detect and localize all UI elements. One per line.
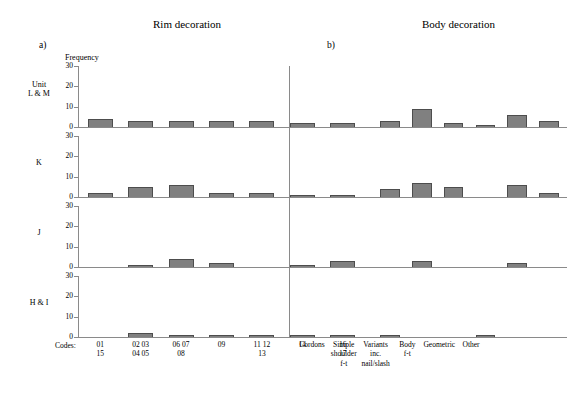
- panel-row-0: UnitL & M 3020100: [78, 66, 567, 128]
- bar-rim-r1-c1: [128, 187, 153, 197]
- y-tick-label: 0: [69, 193, 73, 201]
- bar-slot: [533, 136, 565, 197]
- bar-rim-r1-c5: [290, 195, 315, 197]
- y-tick-label: 30: [66, 62, 74, 70]
- bar-slot: [161, 276, 201, 337]
- bar-slot: [120, 136, 160, 197]
- y-tick-label: 30: [66, 272, 74, 280]
- x-tick-label-body-1: Simpleshoulderf-t: [328, 340, 360, 368]
- bars-body-2: [374, 206, 565, 267]
- bar-slot: [282, 206, 322, 267]
- bar-rim-r1-c3: [209, 193, 234, 197]
- bar-slot: [201, 136, 241, 197]
- bar-slot: [374, 136, 406, 197]
- x-tick-label-rim-0: 0115: [80, 340, 120, 359]
- bar-slot: [533, 276, 565, 337]
- y-tick-label: 30: [66, 202, 74, 210]
- y-axis-line-2: [78, 206, 79, 268]
- bar-slot: [438, 66, 470, 127]
- row-label-0: UnitL & M: [22, 80, 56, 98]
- panel-row-3: H & I 3020100: [78, 276, 567, 338]
- y-tick: [74, 107, 78, 108]
- bar-body-r1-c2: [444, 187, 464, 197]
- bar-rim-r3-c6: [330, 335, 355, 337]
- bar-slot: [282, 66, 322, 127]
- x-tick-label-body-4: Geometric: [423, 340, 455, 368]
- bar-slot: [406, 66, 438, 127]
- bar-body-r0-c3: [476, 125, 496, 127]
- bar-slot: [323, 66, 363, 127]
- bar-slot: [201, 276, 241, 337]
- bar-slot: [161, 206, 201, 267]
- bar-slot: [469, 136, 501, 197]
- x-tick-label-body-5: Other: [455, 340, 487, 368]
- chart-title-rim: Rim decoration: [153, 18, 221, 30]
- y-tick: [74, 127, 78, 128]
- bar-rim-r0-c2: [169, 121, 194, 127]
- y-tick: [74, 337, 78, 338]
- bar-body-r1-c0: [380, 189, 400, 197]
- bars-rim-3: [80, 276, 363, 337]
- x-tick-labels-body: CordonsSimpleshoulderf-tVariantsinc.nail…: [296, 340, 487, 368]
- bar-slot: [161, 66, 201, 127]
- bar-rim-r2-c5: [290, 265, 315, 267]
- bars-body-3: [374, 276, 565, 337]
- chart-title-body: Body decoration: [422, 18, 495, 30]
- bar-rim-r3-c5: [290, 335, 315, 337]
- bar-slot: [501, 276, 533, 337]
- bar-slot: [469, 276, 501, 337]
- y-tick-label: 30: [66, 132, 74, 140]
- x-tick-label-rim-3: 09: [201, 340, 241, 359]
- y-tick: [74, 156, 78, 157]
- y-tick: [74, 197, 78, 198]
- bar-slot: [282, 136, 322, 197]
- chart-canvas: Rim decoration Body decoration a) b) Fre…: [0, 0, 586, 399]
- bar-rim-r1-c6: [330, 195, 355, 197]
- bar-rim-r1-c4: [249, 193, 274, 197]
- bar-body-r1-c1: [412, 183, 432, 197]
- y-tick-label: 20: [66, 223, 74, 231]
- row-label-3: H & I: [22, 298, 56, 307]
- bars-rim-2: [80, 206, 363, 267]
- bar-rim-r0-c1: [128, 121, 153, 127]
- y-axis-line-0: [78, 66, 79, 128]
- x-tick-label-rim-4: 11 1213: [242, 340, 282, 359]
- y-axis-line-3: [78, 276, 79, 338]
- y-tick: [74, 247, 78, 248]
- bar-body-r2-c4: [507, 263, 527, 267]
- y-tick-label: 0: [69, 263, 73, 271]
- bar-slot: [533, 206, 565, 267]
- bar-rim-r2-c3: [209, 263, 234, 267]
- bar-body-r0-c4: [507, 115, 527, 127]
- bar-slot: [501, 206, 533, 267]
- x-tick-label-rim-2: 06 0708: [161, 340, 201, 359]
- y-tick: [74, 317, 78, 318]
- bar-slot: [120, 206, 160, 267]
- bar-slot: [406, 206, 438, 267]
- y-tick-label: 20: [66, 153, 74, 161]
- bar-rim-r1-c0: [88, 193, 113, 197]
- bar-slot: [80, 276, 120, 337]
- bar-slot: [438, 276, 470, 337]
- bar-body-r1-c5: [539, 193, 559, 197]
- panel-label-b: b): [327, 40, 335, 50]
- panel-row-1: K 3020100: [78, 136, 567, 198]
- bar-slot: [374, 276, 406, 337]
- bar-slot: [242, 66, 282, 127]
- bar-rim-r0-c0: [88, 119, 113, 127]
- bar-slot: [282, 276, 322, 337]
- bar-slot: [501, 66, 533, 127]
- bar-slot: [501, 136, 533, 197]
- bar-rim-r2-c6: [330, 261, 355, 267]
- y-tick: [74, 296, 78, 297]
- x-tick-label-body-0: Cordons: [296, 340, 328, 368]
- bar-rim-r3-c1: [128, 333, 153, 337]
- codes-label: Codes:: [55, 341, 76, 350]
- y-tick: [74, 66, 78, 67]
- bar-slot: [533, 66, 565, 127]
- bars-rim-0: [80, 66, 363, 127]
- bars-body-1: [374, 136, 565, 197]
- bars-body-0: [374, 66, 565, 127]
- y-tick: [74, 226, 78, 227]
- bar-slot: [374, 66, 406, 127]
